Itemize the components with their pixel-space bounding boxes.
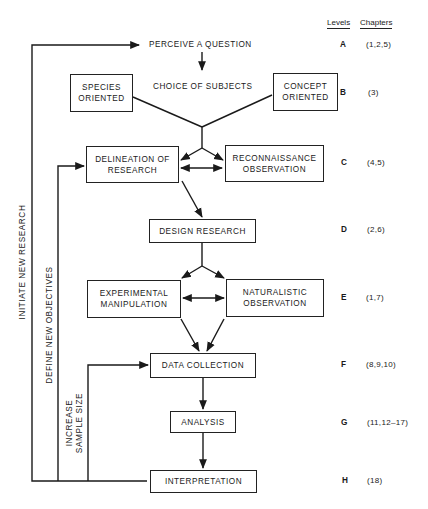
chapters-e: (1,7) (366, 293, 384, 302)
chapters-d: (2,6) (367, 225, 385, 234)
analysis-box: ANALYSIS (170, 411, 236, 433)
concept-oriented-box: CONCEPT ORIENTED (273, 73, 338, 111)
increase-sample-size-label: INCREASE SAMPLE SIZE (65, 388, 85, 458)
level-b: B (340, 88, 346, 97)
levels-header: Levels (327, 18, 350, 29)
chapters-header: Chapters (360, 18, 392, 29)
level-h: H (342, 476, 348, 485)
experimental-manipulation-box: EXPERIMENTAL MANIPULATION (87, 280, 181, 318)
species-oriented-box: SPECIES ORIENTED (70, 74, 133, 112)
delineation-of-research-box: DELINEATION OF RESEARCH (86, 146, 179, 183)
naturalistic-observation-box: NATURALISTIC OBSERVATION (226, 279, 324, 317)
initiate-new-research-label: INITIATE NEW RESEARCH (18, 197, 28, 327)
chapters-f: (8,9,10) (366, 360, 396, 369)
choice-of-subjects-label: CHOICE OF SUBJECTS (153, 82, 253, 91)
define-new-objectives-label: DEFINE NEW OBJECTIVES (45, 260, 55, 390)
level-d: D (341, 225, 347, 234)
chapters-h: (18) (367, 476, 382, 485)
level-e: E (341, 293, 346, 302)
chapters-c: (4,5) (367, 158, 385, 167)
level-f: F (341, 360, 346, 369)
interpretation-box: INTERPRETATION (150, 470, 257, 493)
level-c: C (341, 158, 347, 167)
perceive-question-node: PERCEIVE A QUESTION (149, 40, 252, 49)
reconnaissance-observation-box: RECONNAISSANCE OBSERVATION (225, 145, 324, 182)
chapters-a: (1,2,5) (366, 40, 391, 49)
level-g: G (341, 418, 347, 427)
level-a: A (340, 40, 346, 49)
chapters-b: (3) (368, 88, 379, 97)
data-collection-box: DATA COLLECTION (150, 353, 256, 378)
chapters-g: (11,12–17) (367, 418, 408, 427)
design-research-box: DESIGN RESEARCH (149, 219, 256, 243)
